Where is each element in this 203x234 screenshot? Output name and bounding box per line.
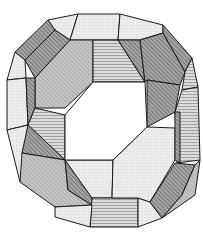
face-right-inner-strip: [175, 112, 180, 163]
face-bottom-hatch: [90, 198, 138, 227]
face-left-outer-mid: [7, 78, 28, 130]
face-top-center-left: [70, 14, 120, 40]
polyhedron-drawing: [0, 0, 203, 234]
face-bottom-left-face: [55, 205, 92, 227]
polyhedron-figure: [0, 0, 203, 234]
